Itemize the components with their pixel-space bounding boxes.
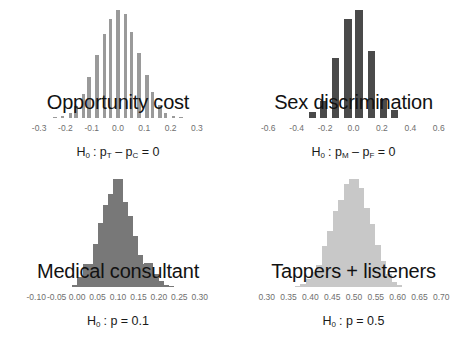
axis-tick-label: -0.05 bbox=[47, 293, 66, 302]
x-axis-0: -0.3-0.2-0.10.00.10.20.3 bbox=[0, 124, 236, 136]
axis-tick-label: 0.2 bbox=[376, 124, 388, 133]
axis-tick-label: 0.60 bbox=[389, 293, 406, 302]
panel-opportunity-cost: Opportunity cost -0.3-0.2-0.10.00.10.20.… bbox=[0, 0, 236, 170]
axis-tick-label: 0.40 bbox=[302, 293, 319, 302]
histogram-bar bbox=[172, 116, 175, 118]
axis-tick-label: 0.1 bbox=[138, 124, 150, 133]
axis-tick-label: -0.4 bbox=[289, 124, 304, 133]
axis-tick-label: 0.4 bbox=[404, 124, 416, 133]
axis-tick-label: 0.00 bbox=[69, 293, 86, 302]
axis-tick-label: 0.25 bbox=[171, 293, 188, 302]
x-axis-1: -0.6-0.4-0.20.00.20.40.6 bbox=[236, 124, 471, 136]
histogram-bar bbox=[53, 117, 56, 118]
panel-title-0: Opportunity cost bbox=[0, 92, 236, 112]
axis-tick-label: 0.70 bbox=[433, 293, 450, 302]
axis-tick-label: 0.45 bbox=[324, 293, 341, 302]
x-axis-2: -0.10-0.050.000.050.100.150.200.250.30 bbox=[0, 293, 236, 305]
null-hypothesis-2: H0: p = 0.1 bbox=[0, 315, 236, 328]
axis-tick-label: 0.0 bbox=[112, 124, 124, 133]
axis-tick-label: -0.10 bbox=[27, 293, 46, 302]
axis-tick-label: -0.6 bbox=[261, 124, 276, 133]
axis-tick-label: 0.15 bbox=[130, 293, 147, 302]
histogram-bar bbox=[61, 116, 64, 118]
axis-tick-label: 0.65 bbox=[411, 293, 428, 302]
histogram-bar bbox=[69, 113, 72, 118]
axis-tick-label: 0.2 bbox=[165, 124, 177, 133]
axis-tick-label: 0.55 bbox=[368, 293, 385, 302]
panel-sex-discrimination: Sex discrimination -0.6-0.4-0.20.00.20.4… bbox=[236, 0, 471, 170]
histogram-panel-grid: Opportunity cost -0.3-0.2-0.10.00.10.20.… bbox=[0, 0, 471, 339]
null-hypothesis-3: H0: p = 0.5 bbox=[236, 315, 471, 328]
axis-tick-label: 0.6 bbox=[433, 124, 445, 133]
axis-tick-label: 0.30 bbox=[258, 293, 275, 302]
axis-tick-label: 0.0 bbox=[348, 124, 360, 133]
axis-tick-label: -0.2 bbox=[58, 124, 73, 133]
panel-tappers-listeners: Tappers + listeners 0.300.350.400.450.50… bbox=[236, 170, 471, 339]
axis-tick-label: 0.3 bbox=[191, 124, 203, 133]
axis-tick-label: -0.2 bbox=[318, 124, 333, 133]
axis-tick-label: 0.10 bbox=[110, 293, 127, 302]
axis-tick-label: 0.20 bbox=[151, 293, 168, 302]
null-hypothesis-0: H0: pT – pC = 0 bbox=[0, 146, 236, 159]
axis-tick-label: 0.30 bbox=[191, 293, 208, 302]
axis-tick-label: 0.50 bbox=[346, 293, 363, 302]
histogram-bar bbox=[164, 113, 167, 118]
axis-tick-label: 0.05 bbox=[89, 293, 106, 302]
axis-tick-label: 0.35 bbox=[280, 293, 297, 302]
panel-title-2: Medical consultant bbox=[0, 261, 236, 281]
panel-medical-consultant: Medical consultant -0.10-0.050.000.050.1… bbox=[0, 170, 236, 339]
axis-tick-label: -0.3 bbox=[32, 124, 47, 133]
null-hypothesis-1: H0: pM – pF = 0 bbox=[236, 146, 471, 159]
axis-tick-label: -0.1 bbox=[84, 124, 99, 133]
panel-title-1: Sex discrimination bbox=[236, 92, 471, 112]
histogram-bar bbox=[393, 285, 403, 287]
histogram-bar bbox=[179, 117, 182, 118]
histogram-bar bbox=[164, 286, 174, 287]
x-axis-3: 0.300.350.400.450.500.550.600.650.70 bbox=[236, 293, 471, 305]
panel-title-3: Tappers + listeners bbox=[236, 261, 471, 281]
